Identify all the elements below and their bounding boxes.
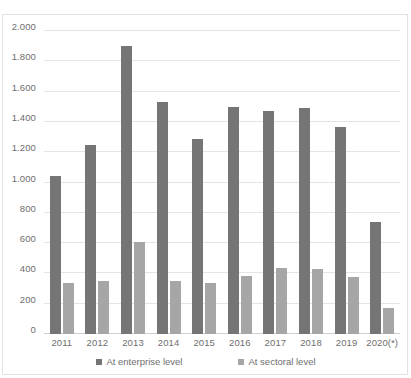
x-axis-tick-label: 2020(*) [366,337,398,348]
chart-title-sliver [0,0,411,14]
legend-swatch-icon [96,359,102,365]
chart-legend: At enterprise levelAt sectoral level [3,356,409,367]
y-axis-tick-label: 1.400 [12,111,36,122]
x-axis-tick-label: 2016 [229,337,251,348]
x-axis-tick-label: 2012 [87,337,109,348]
y-axis-tick-label: 2.000 [12,21,36,32]
x-axis-tick-label: 2015 [193,337,215,348]
x-axis-tick-label: 2017 [265,337,287,348]
bar-group [293,31,329,334]
bar-sectoral [312,269,323,334]
x-axis-labels: 2011201220132014201520162017201820192020… [44,337,400,353]
bar-sectoral [383,308,394,335]
bars-layer [44,31,400,334]
y-axis-tick-label: 800 [20,202,36,213]
chart-frame: 02004006008001.0001.2001.4001.6001.8002.… [2,14,408,375]
bar-group [151,31,187,334]
bar-enterprise [50,176,61,334]
legend-label: At sectoral level [248,356,315,367]
x-axis-tick-label: 2019 [336,337,358,348]
bar-sectoral [348,277,359,334]
y-axis-tick-label: 600 [20,233,36,244]
bar-group [44,31,80,334]
bar-group [80,31,116,334]
bar-sectoral [134,242,145,334]
x-axis-tick-label: 2014 [158,337,180,348]
bar-enterprise [263,111,274,334]
bar-enterprise [228,107,239,334]
legend-item[interactable]: At enterprise level [96,356,182,367]
bar-enterprise [85,145,96,334]
x-axis-tick-label: 2018 [300,337,322,348]
bar-sectoral [98,281,109,334]
y-axis-tick-label: 400 [20,263,36,274]
legend-item[interactable]: At sectoral level [238,356,315,367]
y-axis-tick-label: 1.800 [12,51,36,62]
bar-group [364,31,400,334]
x-axis-tick-label: 2011 [51,337,72,348]
y-axis-tick-label: 1.600 [12,81,36,92]
y-axis-tick-label: 0 [31,324,36,335]
bar-sectoral [276,268,287,334]
y-axis-tick-label: 1.000 [12,172,36,183]
bar-enterprise [157,102,168,334]
legend-label: At enterprise level [106,356,182,367]
bar-enterprise [335,127,346,334]
bar-group [329,31,365,334]
bar-group [186,31,222,334]
legend-swatch-icon [238,359,244,365]
bar-enterprise [299,108,310,334]
bar-group [258,31,294,334]
bar-enterprise [370,222,381,334]
plot-area [44,31,400,334]
y-axis-labels: 02004006008001.0001.2001.4001.6001.8002.… [3,31,41,334]
bar-enterprise [192,139,203,334]
bar-sectoral [170,281,181,334]
bar-group [115,31,151,334]
bar-sectoral [205,283,216,335]
bar-sectoral [241,276,252,334]
bar-sectoral [63,283,74,335]
bar-enterprise [121,46,132,334]
y-axis-tick-label: 1.200 [12,142,36,153]
bar-group [222,31,258,334]
y-axis-tick-label: 200 [20,293,36,304]
x-axis-tick-label: 2013 [122,337,144,348]
bar-chart: 02004006008001.0001.2001.4001.6001.8002.… [0,0,411,378]
